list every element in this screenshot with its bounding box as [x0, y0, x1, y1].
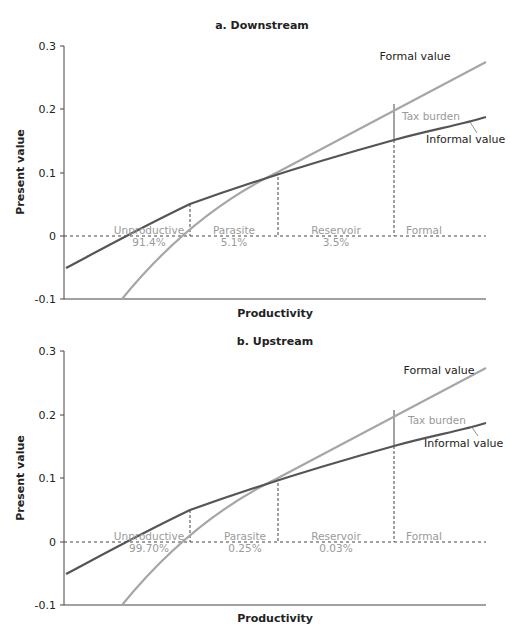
region-label: Unproductive: [114, 530, 184, 542]
y-axis-label: Present value: [14, 129, 27, 215]
region-share: 3.5%: [323, 236, 350, 248]
y-tick: 0: [49, 230, 56, 243]
leader-line: [470, 122, 477, 133]
informal-value-label: Informal value: [426, 133, 505, 146]
panel-downstream: a. Downstream Present value 0.3 0.2 0.1 …: [14, 19, 505, 320]
y-tick: 0.1: [39, 472, 57, 485]
formal-value-curve: [122, 368, 486, 605]
region-label: Unproductive: [114, 224, 184, 236]
region-label: Formal: [406, 224, 442, 236]
region-label: Parasite: [213, 224, 255, 236]
panel-title: b. Upstream: [237, 335, 313, 348]
tax-burden-label: Tax burden: [401, 110, 460, 122]
tax-burden-label: Tax burden: [407, 414, 466, 426]
x-axis-label: Productivity: [237, 612, 313, 625]
y-tick: 0.1: [39, 167, 57, 180]
y-tick: 0.2: [39, 409, 57, 422]
y-tick: 0: [49, 536, 56, 549]
y-tick: 0.2: [39, 103, 57, 116]
y-tick: -0.1: [35, 599, 56, 612]
formal-value-label: Formal value: [403, 364, 474, 377]
region-share: 99.70%: [129, 542, 169, 554]
leader-line: [471, 426, 478, 436]
region-label: Parasite: [224, 530, 266, 542]
panel-title: a. Downstream: [215, 19, 309, 32]
region-share: 0.03%: [319, 542, 352, 554]
y-tick: 0.3: [39, 345, 57, 358]
x-axis-label: Productivity: [237, 307, 313, 320]
panel-upstream: b. Upstream Present value 0.3 0.2 0.1 0 …: [14, 335, 503, 625]
y-tick: -0.1: [35, 293, 56, 306]
region-label: Formal: [406, 530, 442, 542]
y-tick: 0.3: [39, 40, 57, 53]
region-share: 0.25%: [228, 542, 261, 554]
region-share: 91.4%: [132, 236, 165, 248]
formal-value-label: Formal value: [379, 50, 450, 63]
informal-value-curve: [66, 117, 486, 268]
region-label: Reservoir: [311, 530, 361, 542]
figure: a. Downstream Present value 0.3 0.2 0.1 …: [0, 0, 510, 631]
region-share: 5.1%: [221, 236, 248, 248]
region-label: Reservoir: [311, 224, 361, 236]
informal-value-label: Informal value: [424, 437, 503, 450]
y-axis-label: Present value: [14, 435, 27, 521]
formal-value-curve: [122, 62, 486, 299]
